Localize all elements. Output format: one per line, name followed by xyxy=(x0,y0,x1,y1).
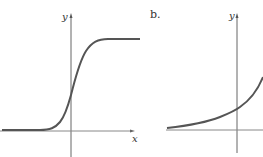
panel-label-b: b. xyxy=(150,8,161,21)
right-panel: b. y xyxy=(150,8,263,153)
left-x-label: x xyxy=(132,133,138,144)
right-y-label: y xyxy=(228,10,235,21)
left-y-arrow-icon xyxy=(70,13,73,18)
exponential-curve xyxy=(167,77,263,128)
figure: y x b. y xyxy=(0,0,263,157)
left-panel: y x xyxy=(0,11,140,157)
left-y-label: y xyxy=(61,11,68,22)
right-y-arrow-icon xyxy=(236,13,239,18)
